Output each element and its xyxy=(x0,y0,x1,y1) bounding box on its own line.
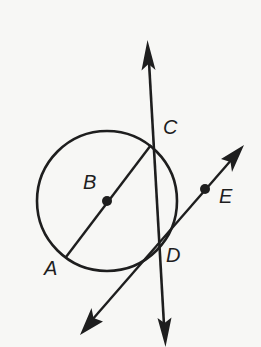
diagram-svg xyxy=(0,0,261,347)
point-B xyxy=(102,196,112,206)
point-E xyxy=(200,184,210,194)
label-D: D xyxy=(166,245,180,265)
label-B: B xyxy=(83,172,96,192)
label-E: E xyxy=(219,186,232,206)
label-C: C xyxy=(163,117,177,137)
line-CD xyxy=(149,62,164,325)
label-A: A xyxy=(44,258,57,278)
geometry-diagram: C B E D A xyxy=(0,0,261,347)
